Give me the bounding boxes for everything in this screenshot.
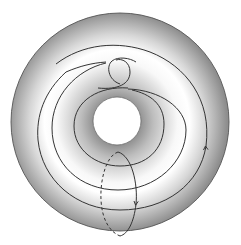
torus-hole xyxy=(93,97,141,145)
torus-figure xyxy=(0,0,241,245)
torus-diagram: Torus with winding curve and meridian lo… xyxy=(0,0,241,245)
